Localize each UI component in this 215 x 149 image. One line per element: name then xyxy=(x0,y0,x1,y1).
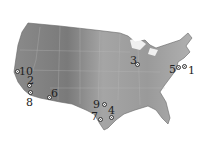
location-marker-icon[interactable] xyxy=(28,90,33,95)
location-marker-icon[interactable] xyxy=(98,117,103,122)
marker-label: 4 xyxy=(108,105,115,116)
location-marker-icon[interactable] xyxy=(176,65,181,70)
marker-label: 7 xyxy=(91,111,98,122)
marker-label: 3 xyxy=(130,55,137,66)
marker-label: 1 xyxy=(188,65,195,76)
us-landmass xyxy=(14,23,192,130)
location-marker-icon[interactable] xyxy=(182,64,187,69)
marker-label: 5 xyxy=(169,64,176,75)
location-marker-icon[interactable] xyxy=(102,102,107,107)
marker-label: 9 xyxy=(93,99,100,110)
marker-label: 6 xyxy=(51,88,58,99)
marker-label: 8 xyxy=(26,97,33,108)
marker-label: 10 xyxy=(19,66,33,77)
